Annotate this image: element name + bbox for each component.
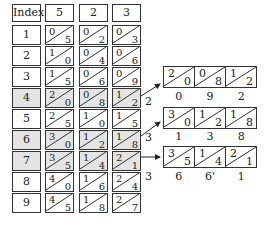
product-cell: 18	[226, 108, 256, 128]
product-cell: 14	[195, 147, 226, 167]
tens-digit: 3	[168, 148, 175, 159]
result-digit: 6'	[194, 170, 225, 183]
ones-digit: 8	[246, 117, 253, 128]
product-cell: 12	[226, 67, 256, 87]
result-digit: 1	[226, 170, 257, 183]
result-digit: 6	[163, 170, 194, 183]
product-result-1: 0 9 2	[163, 90, 257, 103]
product-cell: 21	[226, 147, 256, 167]
product-result-2: 1 3 8	[163, 130, 257, 143]
multiplier-label-2: 3	[145, 131, 152, 144]
ones-digit: 8	[215, 76, 222, 87]
tens-digit: 1	[199, 109, 206, 120]
product-result-3: 6 6' 1	[163, 170, 257, 183]
result-digit: 0	[163, 90, 194, 103]
result-digit: 3	[194, 130, 225, 143]
product-box-2: 301218	[163, 107, 257, 129]
tens-digit: 2	[168, 68, 175, 79]
ones-digit: 1	[246, 156, 253, 167]
multiplier-label-1: 2	[145, 95, 152, 108]
product-cell: 08	[195, 67, 226, 87]
product-cell: 35	[164, 147, 195, 167]
result-digit: 1	[163, 130, 194, 143]
product-cell: 30	[164, 108, 195, 128]
result-digit: 8	[226, 130, 257, 143]
ones-digit: 5	[184, 156, 191, 167]
ones-digit: 2	[246, 76, 253, 87]
tens-digit: 2	[230, 148, 237, 159]
product-cell: 20	[164, 67, 195, 87]
product-cell: 12	[195, 108, 226, 128]
ones-digit: 2	[215, 117, 222, 128]
result-digit: 9	[194, 90, 225, 103]
result-digit: 2	[226, 90, 257, 103]
product-box-3: 351421	[163, 146, 257, 168]
tens-digit: 1	[230, 109, 237, 120]
product-box-1: 200812	[163, 66, 257, 88]
multiplier-label-3: 3	[145, 170, 152, 183]
ones-digit: 0	[184, 117, 191, 128]
ones-digit: 4	[215, 156, 222, 167]
tens-digit: 0	[199, 68, 206, 79]
tens-digit: 3	[168, 109, 175, 120]
tens-digit: 1	[230, 68, 237, 79]
tens-digit: 1	[199, 148, 206, 159]
ones-digit: 0	[184, 76, 191, 87]
